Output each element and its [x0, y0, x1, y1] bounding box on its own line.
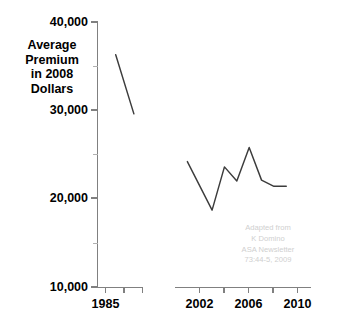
- y-tick-label-40000: 40,000: [50, 15, 88, 29]
- x-tick-label-1985: 1985: [92, 297, 120, 311]
- series-line-early: [116, 55, 134, 114]
- y-tick-label-20000: 20,000: [50, 191, 88, 205]
- x-axis-ticks-early: [106, 288, 143, 294]
- y-axis-minor-ticks: [93, 66, 98, 243]
- x-tick-label-2002: 2002: [186, 297, 214, 311]
- chart-container: Average Premium in 2008 Dollars Adapted …: [0, 0, 338, 320]
- chart-svg: 40,000 30,000 20,000 10,000 1985 2002 20…: [0, 0, 338, 320]
- y-tick-label-10000: 10,000: [50, 280, 88, 294]
- series-line-late: [187, 147, 286, 210]
- x-tick-label-2006: 2006: [235, 297, 263, 311]
- y-tick-label-30000: 30,000: [50, 103, 88, 117]
- x-axis-ticks-late: [200, 288, 298, 294]
- x-tick-label-2010: 2010: [284, 297, 312, 311]
